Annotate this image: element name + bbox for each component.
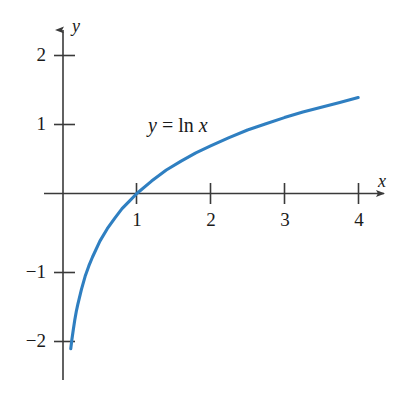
equation-ln-operator: ln xyxy=(178,114,194,136)
curve-equation-label: y = ln x xyxy=(148,115,208,135)
x-tick-label-1: 1 xyxy=(122,210,152,229)
y-tick-label-minus-2: −2 xyxy=(6,331,46,350)
x-tick-label-4: 4 xyxy=(344,210,374,229)
graph-canvas xyxy=(0,0,400,415)
y-tick-label-2: 2 xyxy=(14,45,46,64)
x-axis-label: x xyxy=(378,172,386,190)
y-tick-label-minus-1: −1 xyxy=(6,262,46,281)
equation-x-symbol: x xyxy=(199,114,208,136)
y-axis-label: y xyxy=(72,17,80,35)
x-tick-label-2: 2 xyxy=(196,210,226,229)
equation-y-symbol: y xyxy=(148,114,157,136)
ln-function-graph-figure: 2 1 −1 −2 1 2 3 4 y x y = ln x xyxy=(0,0,400,415)
equation-equals-sign: = xyxy=(162,114,173,136)
x-tick-label-3: 3 xyxy=(270,210,300,229)
y-tick-label-1: 1 xyxy=(14,114,46,133)
